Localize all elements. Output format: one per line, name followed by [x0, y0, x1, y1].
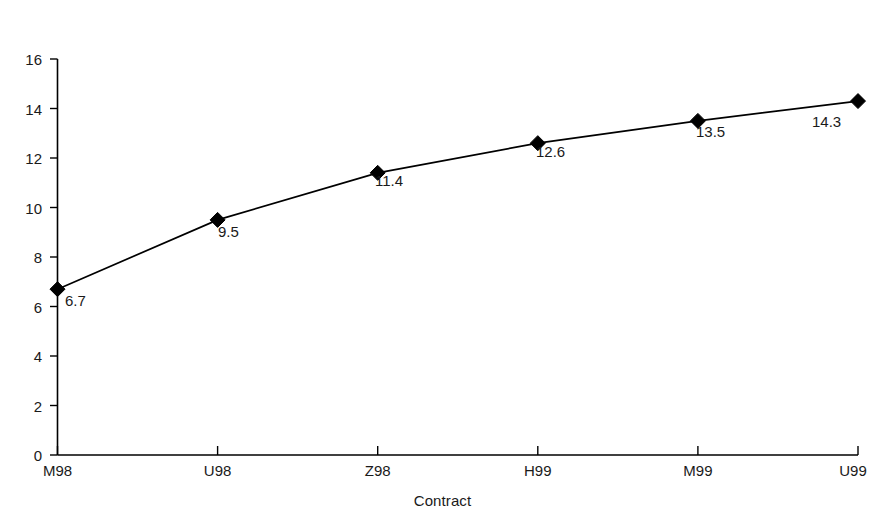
point-label-u98: 9.5 — [218, 223, 239, 240]
y-tick-label-6: 6 — [2, 298, 42, 315]
point-label-m98: 6.7 — [65, 292, 86, 309]
x-axis-title: Contract — [0, 492, 885, 509]
point-label-m99: 13.5 — [696, 123, 725, 140]
y-tick-label-12: 12 — [2, 150, 42, 167]
plot-area — [0, 0, 885, 524]
y-tick-label-16: 16 — [2, 51, 42, 68]
x-tick-label-u98: U98 — [178, 462, 258, 479]
x-tick-label-z98: Z98 — [338, 462, 418, 479]
chart-background — [0, 0, 885, 524]
volatility-line-chart: Volatility (%) — [0, 0, 885, 524]
point-label-u99: 14.3 — [812, 113, 841, 130]
x-tick-label-m98: M98 — [18, 462, 98, 479]
y-tick-label-14: 14 — [2, 100, 42, 117]
point-label-z98: 11.4 — [375, 172, 403, 189]
point-label-h99: 12.6 — [536, 143, 565, 160]
y-tick-label-0: 0 — [2, 447, 42, 464]
y-tick-label-2: 2 — [2, 397, 42, 414]
y-tick-label-10: 10 — [2, 199, 42, 216]
x-tick-label-h99: H99 — [498, 462, 578, 479]
y-tick-label-4: 4 — [2, 348, 42, 365]
x-tick-label-u99: U99 — [813, 462, 885, 479]
x-tick-label-m99: M99 — [658, 462, 738, 479]
y-tick-label-8: 8 — [2, 249, 42, 266]
